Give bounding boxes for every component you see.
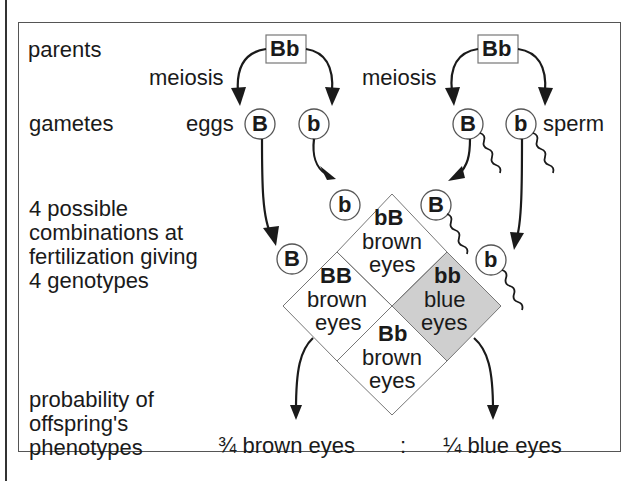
combo-sperm-b: b [484,248,497,272]
result-separator: : [400,434,406,458]
male-genotype: Bb [482,37,511,61]
cell-left-line1: brown [307,288,367,312]
label-gametes: gametes [29,112,113,136]
cell-bottom-genotype: Bb [378,322,407,346]
label-probability-2: offspring's [29,412,128,436]
male-meiosis-label: meiosis [362,66,437,90]
label-parents: parents [28,38,101,62]
meiosis-arrow-sperm-b [518,49,545,92]
label-combinations-1: 4 possible [29,197,128,221]
cell-top-genotype: bB [374,206,403,230]
combo-sperm-B: B [428,193,444,217]
meiosis-arrow-egg-b [306,49,332,92]
sperm-B: B [460,112,476,136]
cell-right-genotype: bb [434,264,461,288]
cell-top-line1: brown [362,230,422,254]
label-probability-3: phenotypes [29,436,143,460]
result-brown: ¾ brown eyes [218,434,355,458]
result-blue: ¼ blue eyes [443,434,562,458]
combo-egg-b: b [338,193,351,217]
label-combinations-2: combinations at [29,221,183,245]
egg-B: B [252,112,268,136]
egg-b: b [307,112,320,136]
label-probability-1: probability of [29,388,154,412]
cell-top-line2: eyes [369,253,415,277]
female-genotype: Bb [270,37,299,61]
female-meiosis-label: meiosis [149,66,224,90]
combo-egg-B: B [284,247,300,271]
cell-right-line1: blue [424,288,466,312]
meiosis-arrow-sperm-B [451,49,478,92]
cell-left-genotype: BB [320,264,352,288]
sperm-b: b [514,112,527,136]
label-combinations-4: 4 genotypes [29,269,149,293]
sperm-label: sperm [543,112,604,136]
cell-left-line2: eyes [315,311,361,335]
label-combinations-3: fertilization giving [29,245,198,269]
cell-right-line2: eyes [421,311,467,335]
meiosis-arrow-egg-B [238,49,266,92]
cell-bottom-line2: eyes [369,369,415,393]
cell-bottom-line1: brown [362,346,422,370]
eggs-label: eggs [186,112,234,136]
